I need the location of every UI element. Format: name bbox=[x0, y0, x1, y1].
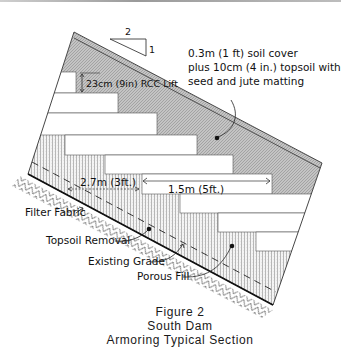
step-width-label: 1.5m (5ft.) bbox=[168, 183, 224, 195]
caption-title: Armoring Typical Section bbox=[107, 333, 254, 347]
topsoil-removal-marker bbox=[147, 227, 152, 232]
rcc-lift-9 bbox=[256, 232, 340, 251]
slope-indicator: 2 1 bbox=[110, 26, 155, 56]
porous-fill-label: Porous Fill bbox=[137, 270, 189, 282]
slope-vertical-label: 1 bbox=[149, 44, 155, 55]
filter-width-label: 2.7m (3ft.) bbox=[80, 176, 136, 188]
soil-cover-label-3: seed and jute matting bbox=[188, 75, 304, 87]
rcc-lift-5 bbox=[105, 155, 233, 174]
rcc-lift-2 bbox=[0, 93, 118, 113]
caption-location: South Dam bbox=[147, 319, 212, 333]
porous-fill-marker bbox=[230, 244, 235, 249]
rcc-lift-3 bbox=[0, 113, 157, 135]
rcc-lift-label: 23cm (9in) RCC Lift bbox=[86, 78, 178, 89]
soil-cover-label-1: 0.3m (1 ft) soil cover bbox=[188, 47, 298, 59]
caption-figure-number: Figure 2 bbox=[156, 305, 205, 319]
soil-cover-label-2: plus 10cm (4 in.) topsoil with bbox=[188, 61, 341, 73]
topsoil-removal-label: Topsoil Removal bbox=[45, 234, 130, 246]
rcc-lift-8 bbox=[218, 213, 340, 232]
armoring-section-diagram: 2 1 0.3m (1 ft) soil cover plus 10cm (4 … bbox=[0, 0, 341, 364]
filter-fabric-callout: Filter Fabric bbox=[25, 206, 86, 218]
soil-cover-marker bbox=[215, 136, 220, 141]
rcc-lift-7 bbox=[180, 194, 340, 213]
filter-fabric-label: Filter Fabric bbox=[25, 206, 86, 218]
slope-horizontal-label: 2 bbox=[125, 26, 131, 37]
rcc-lift-1 bbox=[0, 72, 76, 93]
existing-grade-label: Existing Grade bbox=[88, 255, 165, 267]
figure-caption: Figure 2 South Dam Armoring Typical Sect… bbox=[107, 305, 254, 347]
rcc-lift-4 bbox=[65, 135, 197, 155]
